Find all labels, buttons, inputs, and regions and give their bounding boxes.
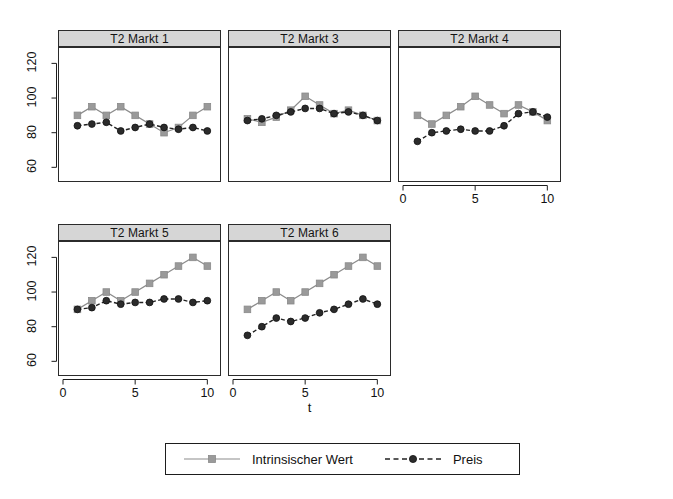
panel-title: T2 Markt 5 [110, 226, 168, 240]
data-point-preis [190, 299, 197, 306]
data-point-intrinsischer-wert [89, 297, 96, 304]
data-point-preis [88, 304, 95, 311]
data-point-preis [472, 128, 479, 135]
legend-entry-intrinsischer-wert: Intrinsischer Wert [182, 451, 353, 467]
panel-t2-markt-4: T2 Markt 4 [398, 30, 561, 182]
series-line-intrinsischer-wert [247, 257, 377, 309]
panel-strip: T2 Markt 4 [398, 30, 561, 47]
data-point-preis [244, 332, 251, 339]
series-line-preis [247, 108, 377, 120]
data-point-intrinsischer-wert [204, 263, 211, 270]
panel-strip: T2 Markt 1 [58, 30, 221, 47]
data-point-preis [88, 121, 95, 128]
series-line-intrinsischer-wert [77, 107, 207, 133]
data-point-preis [414, 138, 421, 145]
legend-label: Preis [453, 452, 483, 467]
data-point-preis [345, 109, 352, 116]
data-point-intrinsischer-wert [74, 112, 81, 119]
data-point-intrinsischer-wert [374, 263, 381, 270]
panel-strip: T2 Markt 6 [228, 224, 391, 241]
x-axis-title: t [290, 400, 330, 415]
y-tick-label: 60 [25, 345, 39, 375]
data-point-preis [117, 128, 124, 135]
data-point-preis [374, 117, 381, 124]
data-point-preis [515, 110, 522, 117]
series-line-preis [77, 299, 207, 309]
panel-title: T2 Markt 1 [110, 32, 168, 46]
series-line-intrinsischer-wert [417, 96, 547, 124]
data-point-preis [190, 124, 197, 131]
series-line-preis [417, 112, 547, 141]
data-point-intrinsischer-wert [190, 112, 197, 119]
data-point-preis [501, 122, 508, 129]
data-point-preis [175, 296, 182, 303]
x-tick-label: 10 [533, 192, 561, 206]
data-point-preis [457, 126, 464, 133]
x-tick-label: 5 [291, 386, 319, 400]
data-point-preis [258, 115, 265, 122]
data-point-preis [103, 297, 110, 304]
data-point-preis [374, 301, 381, 308]
data-point-intrinsischer-wert [146, 280, 153, 287]
data-point-intrinsischer-wert [457, 103, 464, 110]
x-tick-label: 10 [363, 386, 391, 400]
data-point-intrinsischer-wert [302, 289, 309, 296]
x-tick-label: 5 [121, 386, 149, 400]
data-point-preis [132, 299, 139, 306]
series-canvas [228, 241, 391, 376]
data-point-intrinsischer-wert [486, 102, 493, 109]
data-point-preis [302, 315, 309, 322]
data-point-preis [331, 306, 338, 313]
data-point-preis [244, 117, 251, 124]
data-point-intrinsischer-wert [360, 254, 367, 261]
y-tick-label: 100 [25, 82, 39, 112]
data-point-preis [544, 114, 551, 121]
data-point-intrinsischer-wert [117, 103, 124, 110]
y-tick-label: 100 [25, 276, 39, 306]
series-canvas [58, 47, 221, 182]
data-point-preis [302, 105, 309, 112]
data-point-intrinsischer-wert [287, 297, 294, 304]
data-point-intrinsischer-wert [316, 280, 323, 287]
series-line-intrinsischer-wert [247, 96, 377, 122]
data-point-preis [74, 122, 81, 129]
data-point-intrinsischer-wert [89, 103, 96, 110]
data-point-intrinsischer-wert [161, 271, 168, 278]
data-point-preis [428, 129, 435, 136]
legend-marker [409, 455, 416, 462]
series-canvas [58, 241, 221, 376]
data-point-preis [258, 323, 265, 330]
legend-marker [209, 456, 216, 463]
x-tick-label: 10 [193, 386, 221, 400]
data-point-preis [103, 119, 110, 126]
legend-key-square-line [182, 451, 242, 467]
y-tick-label: 80 [25, 117, 39, 147]
y-tick-label: 120 [25, 241, 39, 271]
data-point-preis [117, 301, 124, 308]
y-tick-label: 80 [25, 311, 39, 341]
y-tick-label: 120 [25, 47, 39, 77]
data-point-preis [486, 128, 493, 135]
data-point-preis [316, 105, 323, 112]
panel-t2-markt-3: T2 Markt 3 [228, 30, 391, 182]
data-point-intrinsischer-wert [103, 289, 110, 296]
data-point-preis [175, 126, 182, 133]
series-canvas [228, 47, 391, 182]
series-line-preis [77, 122, 207, 131]
data-point-preis [287, 318, 294, 325]
data-point-preis [360, 112, 367, 119]
panel-t2-markt-6: T2 Markt 6 [228, 224, 391, 376]
panel-title: T2 Markt 3 [280, 32, 338, 46]
data-point-preis [74, 306, 81, 313]
data-point-preis [146, 121, 153, 128]
x-tick-label: 5 [461, 192, 489, 206]
data-point-intrinsischer-wert [132, 289, 139, 296]
data-point-intrinsischer-wert [345, 263, 352, 270]
data-point-intrinsischer-wert [204, 103, 211, 110]
data-point-preis [161, 296, 168, 303]
trellis-chart-figure: T2 Markt 1T2 Markt 3T2 Markt 40510T2 Mar… [0, 0, 673, 499]
data-point-preis [530, 109, 537, 116]
data-point-preis [345, 301, 352, 308]
data-point-intrinsischer-wert [501, 110, 508, 117]
series-line-preis [247, 299, 377, 335]
